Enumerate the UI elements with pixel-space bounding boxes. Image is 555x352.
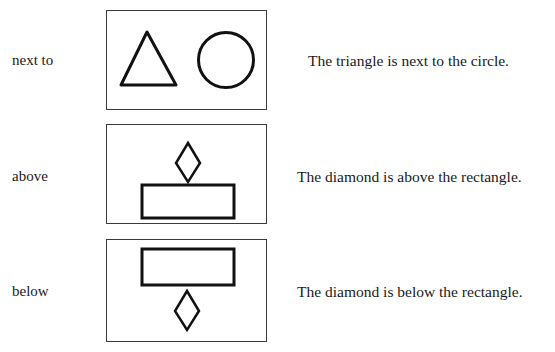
relation-label-next-to: next to xyxy=(12,52,53,69)
sentence-next-to: The triangle is next to the circle. xyxy=(308,52,509,70)
example-frame-next-to xyxy=(106,10,267,110)
triangle-shape xyxy=(121,32,176,85)
relation-label-below: below xyxy=(12,283,49,300)
rectangle-shape xyxy=(142,249,234,285)
relation-label-above: above xyxy=(12,168,48,185)
rectangle-shape xyxy=(142,185,234,218)
sentence-below: The diamond is below the rectangle. xyxy=(297,283,523,301)
circle-shape xyxy=(199,33,254,88)
example-frame-below xyxy=(106,239,267,342)
example-frame-above xyxy=(106,124,267,224)
diamond-shape xyxy=(175,291,199,330)
sentence-above: The diamond is above the rectangle. xyxy=(297,168,522,186)
diamond-shape xyxy=(176,143,200,182)
